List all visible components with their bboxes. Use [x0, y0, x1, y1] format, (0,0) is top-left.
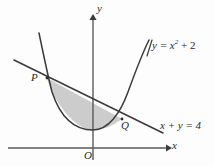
point-label-q: Q	[121, 120, 129, 131]
x-axis-label: x	[172, 140, 177, 151]
point-label-p: P	[31, 72, 38, 83]
figure-canvas	[0, 0, 214, 166]
parabola-equation-head: y = x	[152, 39, 175, 51]
line-equation-label: x + y = 4	[160, 120, 201, 131]
y-axis-arrow-icon	[89, 14, 96, 20]
parabola-equation-tail: + 2	[178, 39, 195, 51]
parabola-equation-label: y = x2 + 2	[152, 40, 195, 51]
point-marker-P	[46, 77, 49, 80]
math-figure: y x O P Q y = x2 + 2 x + y = 4	[0, 0, 214, 166]
origin-label: O	[84, 150, 92, 161]
y-axis-label: y	[97, 3, 102, 14]
